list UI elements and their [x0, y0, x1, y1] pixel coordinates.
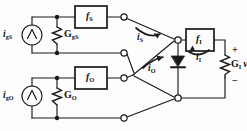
schematic-vectors — [0, 0, 247, 131]
terminal-is-circle — [121, 14, 127, 20]
label-current-source-go: igO — [3, 91, 13, 101]
label-current-ii: iI — [196, 53, 201, 63]
wire-switch-pivot-upper — [127, 54, 134, 73]
terminal-io-circle — [121, 75, 127, 81]
source-go-arrow-glyph — [28, 91, 37, 100]
node-top-right — [175, 37, 181, 43]
source-gs-arrow-glyph — [28, 30, 37, 39]
source-gs-circle — [22, 25, 42, 45]
conductance-gi-zigzag — [221, 55, 230, 78]
diode-triangle — [172, 56, 185, 67]
node-dot-upper-bottom — [55, 51, 59, 55]
label-current-is: iS — [137, 33, 143, 43]
wire-fi-to-gi — [214, 40, 225, 55]
wire-switch-to-bottom-node — [134, 76, 174, 97]
wire-gi-to-bottomnode — [178, 78, 225, 98]
label-block-fo: fO — [86, 72, 94, 82]
source-go-circle — [22, 86, 42, 106]
node-bottom-right — [175, 95, 181, 101]
label-block-fi: fI — [196, 34, 202, 44]
terminal-upper-return-circle — [121, 50, 127, 56]
label-block-fs: fS — [86, 11, 93, 21]
label-current-io: iO — [148, 64, 155, 74]
wire-bottom-terminal-to-node — [127, 99, 174, 117]
conductance-ggs-zigzag — [53, 27, 62, 44]
node-dot-upper-top — [55, 15, 59, 19]
label-conductance-ggs: GgS — [64, 29, 79, 39]
node-dot-lower-bottom — [55, 116, 59, 120]
label-output-conductance-voltage: GI vI — [231, 59, 247, 69]
circuit-diagram: igS igO GgS GO fS fO fI iS iO iI GI vI +… — [0, 0, 247, 131]
wire-switch-pivot-lower — [127, 75, 134, 78]
conductance-ggo-zigzag — [53, 88, 62, 105]
terminal-lower-return-circle — [121, 115, 127, 121]
label-current-source-gs: igS — [3, 30, 12, 40]
label-conductance-ggo: GO — [64, 90, 77, 100]
node-dot-lower-top — [55, 76, 59, 80]
polarity-plus: + — [232, 45, 238, 55]
polarity-minus: − — [232, 76, 238, 86]
